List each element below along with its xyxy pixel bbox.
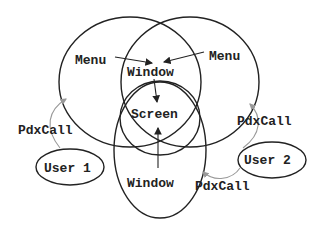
pdxcall-bottom-label: PdxCall xyxy=(195,179,250,194)
pdxcall-left-label: PdxCall xyxy=(18,123,73,138)
user2-label: User 2 xyxy=(244,153,291,168)
venn-diagram: Menu Menu Window Screen Window PdxCall P… xyxy=(0,0,322,228)
screen-label: Screen xyxy=(131,107,178,122)
menu-left-label: Menu xyxy=(75,53,106,68)
window-top-label: Window xyxy=(127,65,174,80)
user1-label: User 1 xyxy=(44,161,91,176)
menu-right-arrow xyxy=(164,52,204,62)
menu-right-label: Menu xyxy=(209,49,240,64)
left-domain-ellipse xyxy=(59,17,201,147)
window-bottom-label: Window xyxy=(127,176,174,191)
pdxcall-bottom-connector xyxy=(203,168,240,178)
menu-left-arrow xyxy=(115,57,152,63)
pdxcall-right-label: PdxCall xyxy=(237,114,292,129)
window-ellipse xyxy=(114,82,206,218)
